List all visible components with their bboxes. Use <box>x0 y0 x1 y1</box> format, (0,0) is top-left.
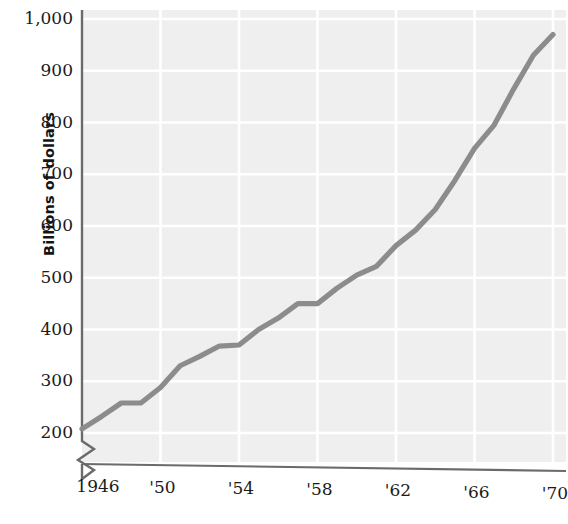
x-axis-line <box>82 464 566 471</box>
y-tick-label: 1,000 <box>24 8 73 28</box>
y-tick-label: 700 <box>41 163 73 183</box>
x-tick-label: '50 <box>149 477 175 497</box>
y-tick-label: 200 <box>41 422 73 442</box>
y-tick-label: 300 <box>41 370 73 390</box>
x-tick-label: '66 <box>463 482 489 502</box>
y-tick-label: 900 <box>41 60 73 80</box>
x-tick-label: 1946 <box>76 476 119 496</box>
y-tick-label: 800 <box>41 112 73 132</box>
x-tick-label: '54 <box>228 478 254 498</box>
y-tick-label: 500 <box>41 267 73 287</box>
x-tick-label: '62 <box>385 480 411 500</box>
y-tick-label: 400 <box>41 319 73 339</box>
x-tick-label: '58 <box>306 479 332 499</box>
x-tick-label: '70 <box>542 483 568 503</box>
y-tick-label: 600 <box>41 215 73 235</box>
